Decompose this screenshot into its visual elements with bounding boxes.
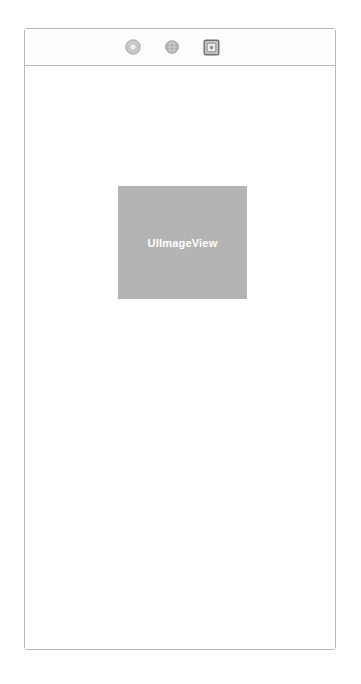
image-frame-icon bbox=[203, 39, 220, 56]
device-frame: UIImageView bbox=[24, 28, 336, 650]
globe-icon bbox=[164, 39, 180, 55]
toolbar bbox=[25, 29, 335, 66]
donut-ring-icon bbox=[124, 38, 142, 56]
image-view-placeholder[interactable]: UIImageView bbox=[118, 186, 247, 299]
canvas-area: UIImageView bbox=[25, 66, 335, 649]
image-frame-icon-button[interactable] bbox=[202, 38, 220, 56]
image-view-label: UIImageView bbox=[148, 237, 218, 249]
toolbar-item-group bbox=[124, 38, 220, 56]
globe-icon-button[interactable] bbox=[163, 38, 181, 56]
donut-ring-icon-button[interactable] bbox=[124, 38, 142, 56]
